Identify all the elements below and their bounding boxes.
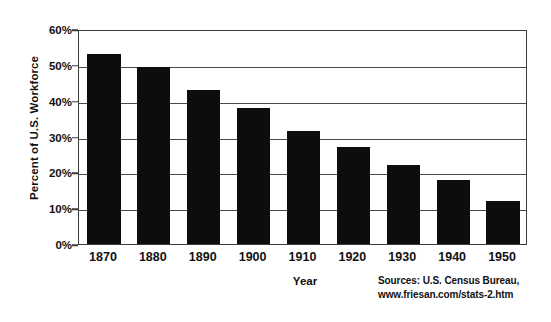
sources-line-2: www.friesan.com/stats-2.htm — [378, 288, 548, 302]
x-tick-label: 1930 — [388, 250, 416, 264]
y-axis-title: Percent of U.S. Workforce — [28, 28, 40, 228]
x-tick-label: 1870 — [89, 250, 117, 264]
x-tick-label: 1950 — [488, 250, 516, 264]
x-tick-label: 1890 — [189, 250, 217, 264]
y-tick-label: 20% — [12, 167, 72, 179]
bar — [437, 180, 470, 245]
x-tick-label: 1910 — [289, 250, 317, 264]
y-tick-label: 0% — [12, 239, 72, 251]
bar — [387, 165, 420, 244]
bar — [187, 90, 220, 244]
y-tick-label: 40% — [12, 96, 72, 108]
x-tick-label: 1880 — [139, 250, 167, 264]
y-tick-label: 50% — [12, 60, 72, 72]
bar — [287, 131, 320, 244]
bar — [87, 54, 120, 244]
x-axis-title: Year — [255, 275, 355, 287]
x-tick-label: 1940 — [438, 250, 466, 264]
x-tick-label: 1900 — [239, 250, 267, 264]
sources-line-1: Sources: U.S. Census Bureau, — [378, 274, 548, 288]
y-tick-label: 30% — [12, 132, 72, 144]
bar — [486, 201, 519, 244]
bar — [237, 108, 270, 244]
bar — [337, 147, 370, 244]
x-tick-label: 1920 — [338, 250, 366, 264]
bar — [137, 67, 170, 244]
plot-area — [78, 30, 527, 245]
sources-note: Sources: U.S. Census Bureau, www.friesan… — [378, 274, 548, 302]
y-tick-label: 10% — [12, 203, 72, 215]
y-tick-label: 60% — [12, 24, 72, 36]
bar-chart: Percent of U.S. Workforce 0%10%20%30%40%… — [0, 0, 551, 322]
